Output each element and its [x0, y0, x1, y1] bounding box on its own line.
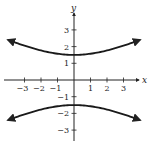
plot-canvas: −3−2−1123321−1−2−3 x y — [0, 0, 152, 146]
x-axis-label: x — [142, 75, 147, 85]
x-tick-label: −1 — [50, 84, 62, 93]
x-tick-label: 1 — [88, 84, 93, 93]
y-tick-label: 2 — [64, 43, 69, 52]
x-tick-label: −3 — [17, 84, 29, 93]
y-tick-label: −1 — [57, 93, 69, 102]
y-tick-label: −2 — [57, 109, 69, 118]
hyperbola-plot: −3−2−1123321−1−2−3 x y — [0, 0, 152, 146]
x-tick-label: −2 — [33, 84, 45, 93]
y-tick-label: −3 — [57, 126, 69, 135]
axes — [4, 13, 139, 141]
y-axis-label: y — [70, 3, 77, 13]
x-tick-label: 3 — [121, 84, 126, 93]
y-tick-label: 3 — [64, 26, 69, 35]
y-tick-label: 1 — [64, 59, 69, 68]
x-tick-label: 2 — [104, 84, 109, 93]
